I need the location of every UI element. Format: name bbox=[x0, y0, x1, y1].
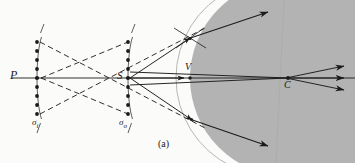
label-point-c: C bbox=[284, 80, 291, 90]
ray-diagram-canvas bbox=[0, 0, 355, 163]
object-point-dots-s bbox=[126, 40, 130, 116]
label-wavefront-sigma-o: σo bbox=[119, 118, 127, 130]
label-point-p: P bbox=[10, 69, 17, 81]
figure-caption: (a) bbox=[158, 139, 169, 149]
sigma-o-subscript: o bbox=[123, 122, 127, 130]
optics-refraction-figure: P S V C σi σo (a) bbox=[0, 0, 355, 163]
image-point-dots-p bbox=[35, 40, 39, 116]
sigma-i-subscript: i bbox=[36, 122, 38, 130]
label-point-v: V bbox=[185, 62, 191, 72]
label-wavefront-sigma-i: σi bbox=[32, 118, 38, 130]
label-point-s: S bbox=[117, 70, 123, 81]
